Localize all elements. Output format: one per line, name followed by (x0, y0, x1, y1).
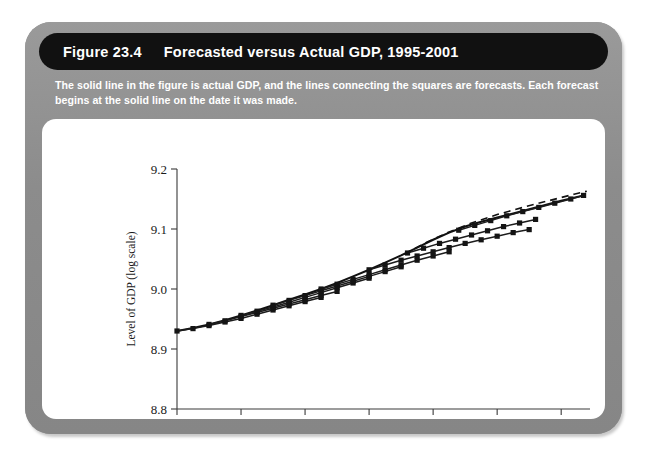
data-marker (581, 193, 586, 198)
data-marker (453, 237, 458, 242)
data-marker (421, 246, 426, 251)
data-marker (485, 228, 490, 233)
data-marker (366, 267, 371, 272)
data-marker (254, 309, 259, 314)
series-line-0 (177, 195, 584, 331)
data-marker (174, 328, 179, 333)
y-tick-label: 8.8 (151, 402, 167, 417)
data-marker (527, 227, 532, 232)
y-tick-label: 9.1 (151, 222, 167, 237)
chart-card: 8.88.99.09.19.21995199619971998199920002… (42, 119, 605, 419)
y-axis-title: Level of GDP (log scale) (125, 231, 138, 346)
data-marker (463, 241, 468, 246)
data-marker (190, 326, 195, 331)
data-marker (366, 272, 371, 277)
data-marker (511, 230, 516, 235)
data-marker (334, 282, 339, 287)
data-marker (383, 262, 388, 267)
data-marker (431, 249, 436, 254)
data-marker (488, 218, 493, 223)
y-tick-label: 8.9 (151, 342, 167, 357)
data-marker (520, 209, 525, 214)
data-marker (302, 293, 307, 298)
data-marker (399, 262, 404, 267)
data-marker (270, 303, 275, 308)
figure-panel: Figure 23.4 Forecasted versus Actual GDP… (25, 22, 622, 434)
data-marker (504, 213, 509, 218)
data-marker (536, 205, 541, 210)
figure-caption: The solid line in the figure is actual G… (55, 78, 611, 108)
data-marker (517, 220, 522, 225)
data-marker (238, 313, 243, 318)
figure-titlebar: Figure 23.4 Forecasted versus Actual GDP… (39, 33, 608, 70)
data-marker (552, 201, 557, 206)
data-marker (222, 318, 227, 323)
figure-number: Figure 23.4 (63, 44, 142, 60)
data-marker (437, 241, 442, 246)
data-marker (350, 277, 355, 282)
data-marker (318, 286, 323, 291)
data-marker (568, 196, 573, 201)
data-marker (415, 253, 420, 258)
y-tick-label: 9.2 (151, 162, 167, 177)
data-marker (501, 224, 506, 229)
data-marker (495, 234, 500, 239)
data-marker (383, 267, 388, 272)
data-marker (479, 237, 484, 242)
gdp-forecast-chart: 8.88.99.09.19.21995199619971998199920002… (42, 119, 605, 419)
data-marker (469, 232, 474, 237)
data-marker (206, 322, 211, 327)
data-marker (399, 258, 404, 263)
y-tick-label: 9.0 (151, 282, 167, 297)
figure-title: Forecasted versus Actual GDP, 1995-2001 (164, 44, 459, 60)
figure-root: Figure 23.4 Forecasted versus Actual GDP… (0, 0, 647, 465)
data-marker (447, 245, 452, 250)
data-marker (286, 298, 291, 303)
data-marker (472, 223, 477, 228)
data-marker (533, 217, 538, 222)
